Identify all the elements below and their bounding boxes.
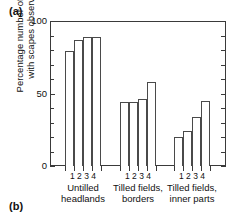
x-axis-tick-group2-1 (120, 166, 121, 171)
y-axis-tick-0 (50, 166, 55, 167)
group3-caption-line2: inner parts (152, 193, 232, 204)
bar-group3-item4 (201, 101, 210, 166)
group3-caption: Tilled fields,inner parts (152, 182, 232, 204)
bar-group1-item1 (65, 51, 74, 166)
bar-group2-item3 (138, 99, 147, 166)
x-axis-tick-group1-end (101, 166, 102, 171)
bar-group2-item2 (129, 102, 138, 166)
bar-group1-item2 (74, 40, 83, 166)
group3-bar-numbers: 1 2 3 4 (168, 172, 216, 181)
bar-group3-item2 (183, 131, 192, 166)
bar-group2-item4 (147, 82, 156, 166)
x-axis-tick-group2-end (156, 166, 157, 171)
y-axis-right-tick-0 (221, 166, 226, 167)
bar-group2-item1 (120, 102, 129, 166)
figure-panel-a: (a) (b) Percentage number of fields with… (0, 0, 237, 217)
bar-group3-item1 (174, 137, 183, 166)
group1-bar-numbers: 1 2 3 4 (59, 172, 107, 181)
y-tick-label-50: 50 (36, 89, 47, 99)
group3-caption-line1: Tilled fields, (152, 182, 232, 193)
y-tick-label-100: 100 (31, 16, 47, 26)
x-axis-tick-group1-1 (65, 166, 66, 171)
bar-group1-item4 (92, 37, 101, 166)
y-tick-label-0: 0 (42, 161, 47, 171)
group2-bar-numbers: 1 2 3 4 (114, 172, 162, 181)
x-axis-tick-group3-1 (174, 166, 175, 171)
y-axis-tick-labels: 050100 (0, 0, 47, 217)
x-axis-tick-group3-end (210, 166, 211, 171)
bar-group1-item3 (83, 37, 92, 166)
bar-group3-item3 (192, 117, 201, 166)
